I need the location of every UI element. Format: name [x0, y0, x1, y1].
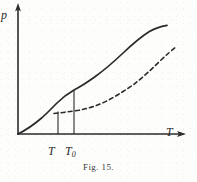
x-tick-label-t0: T0 [65, 145, 76, 159]
dashed-curve [54, 47, 176, 114]
solid-curve [18, 25, 167, 134]
x-axis-label: T [166, 126, 173, 138]
figure-container: p T T T0 Fig. 15. [0, 0, 197, 182]
plot-svg [0, 0, 197, 182]
x-tick-label-t0-base: T [65, 144, 72, 158]
x-tick-label-t0-subscript: 0 [72, 150, 76, 159]
figure-caption: Fig. 15. [0, 162, 197, 172]
y-axis-label: p [1, 9, 7, 21]
x-tick-label-t: T [48, 145, 55, 157]
